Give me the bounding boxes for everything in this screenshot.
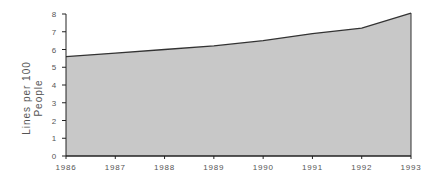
- y-tick-label: 0: [52, 152, 57, 161]
- y-tick-label: 4: [52, 81, 57, 90]
- x-tick-label: 1993: [401, 163, 422, 172]
- x-tick-label: 1990: [253, 163, 274, 172]
- y-tick-label: 8: [52, 10, 57, 19]
- x-tick-label: 1987: [105, 163, 126, 172]
- plot-area: [66, 13, 411, 156]
- y-axis: 012345678: [52, 10, 66, 161]
- y-tick-label: 5: [52, 63, 57, 72]
- y-tick-label: 2: [52, 117, 57, 126]
- x-tick-label: 1992: [351, 163, 372, 172]
- area-chart: 012345678 198619871988198919901991199219…: [0, 0, 439, 184]
- y-tick-label: 3: [52, 99, 57, 108]
- y-tick-label: 6: [52, 46, 57, 55]
- x-tick-label: 1991: [302, 163, 323, 172]
- y-axis-title-line-1: Lines per 100: [21, 61, 32, 135]
- area-fill: [66, 13, 411, 156]
- y-tick-label: 7: [52, 28, 57, 37]
- y-tick-label: 1: [52, 134, 57, 143]
- y-axis-title-line-2: People: [33, 79, 44, 116]
- x-tick-label: 1989: [203, 163, 224, 172]
- y-axis-title: Lines per 100 People: [21, 61, 44, 135]
- x-tick-label: 1988: [154, 163, 175, 172]
- x-axis: 19861987198819891990199119921993: [56, 156, 422, 172]
- x-tick-label: 1986: [56, 163, 77, 172]
